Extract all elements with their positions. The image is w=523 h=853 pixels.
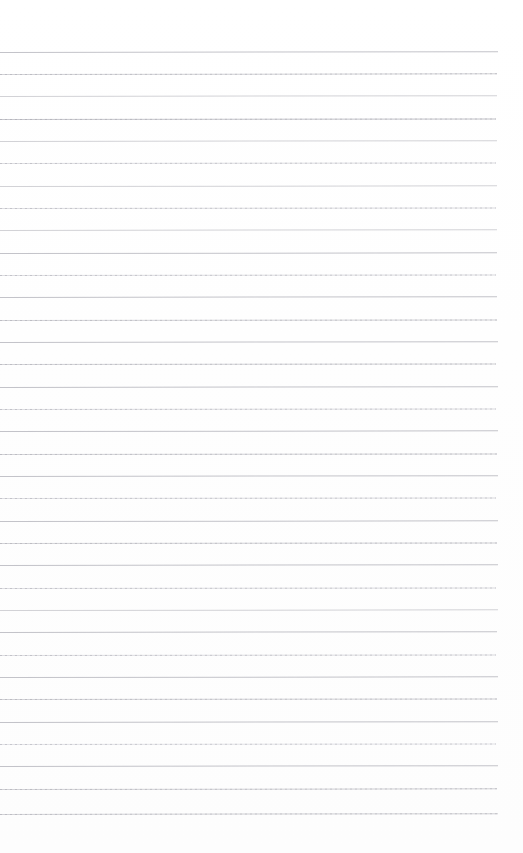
rule-line: [0, 140, 497, 142]
rule-line: [0, 207, 496, 209]
rule-line: [0, 609, 498, 611]
rule-line: [0, 408, 496, 410]
rule-line: [0, 721, 498, 723]
rule-line: [0, 296, 497, 298]
rule-line: [0, 185, 497, 187]
rule-line: [0, 788, 497, 790]
rule-line: [0, 162, 496, 164]
rule-line: [0, 274, 496, 276]
rule-line: [0, 95, 497, 97]
rule-line: [0, 542, 497, 544]
rule-line: [0, 252, 497, 254]
rule-line: [0, 475, 498, 477]
rule-line: [0, 743, 496, 745]
ruled-lines-layer: [0, 0, 523, 853]
rule-line: [0, 698, 497, 700]
rule-line: [0, 453, 497, 455]
notebook-page: [0, 0, 523, 853]
rule-line: [0, 676, 498, 678]
rule-line: [0, 631, 497, 633]
rule-line: [0, 813, 498, 815]
rule-line: [0, 765, 498, 767]
rule-line: [0, 363, 496, 365]
rule-line: [0, 341, 498, 343]
rule-line: [0, 520, 498, 522]
rule-line: [0, 118, 496, 120]
rule-line: [0, 587, 496, 589]
rule-line: [0, 430, 498, 432]
rule-line: [0, 497, 496, 499]
rule-line: [0, 654, 496, 656]
rule-line: [0, 51, 498, 53]
rule-line: [0, 229, 497, 231]
rule-line: [0, 73, 497, 75]
rule-line: [0, 386, 498, 388]
rule-line: [0, 564, 498, 566]
rule-line: [0, 319, 497, 321]
